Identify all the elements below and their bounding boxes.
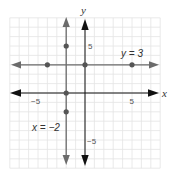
arrow-left-icon	[11, 61, 21, 68]
arrow-down-icon	[63, 155, 70, 165]
arrow-left-icon	[10, 89, 21, 96]
data-point	[64, 90, 69, 95]
tick-label-x-5: 5	[130, 97, 135, 106]
data-point	[129, 62, 134, 67]
equation-label-y-eq-3: y = 3	[120, 48, 143, 59]
data-point	[45, 62, 50, 67]
arrow-right-icon	[148, 89, 159, 96]
data-point	[64, 43, 69, 48]
tick-label-y-neg5: −5	[87, 137, 97, 146]
arrow-up-icon	[63, 17, 70, 27]
arrow-up-icon	[81, 19, 88, 30]
y-axis-label: y	[80, 4, 86, 16]
x-axis-label: x	[161, 87, 167, 99]
coordinate-plane: x y −5 5 5 −5 y = 3 x = −2	[0, 0, 175, 175]
data-point	[82, 62, 87, 67]
equation-label-x-eq-neg2: x = −2	[31, 122, 60, 133]
arrow-down-icon	[81, 155, 88, 166]
tick-label-x-neg5: −5	[31, 97, 41, 106]
data-point	[64, 109, 69, 114]
arrow-right-icon	[149, 61, 159, 68]
tick-label-y-5: 5	[88, 42, 93, 51]
